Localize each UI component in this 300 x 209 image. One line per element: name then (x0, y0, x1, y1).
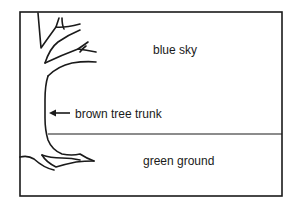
tree-icon (20, 13, 96, 170)
ground-label: green ground (143, 155, 214, 167)
scene-drawing (0, 0, 300, 209)
diagram-canvas: blue sky green ground brown tree trunk (0, 0, 300, 209)
arrow-left-icon (49, 110, 70, 117)
frame-border (20, 12, 282, 196)
trunk-callout-label: brown tree trunk (75, 108, 162, 120)
sky-label: blue sky (153, 44, 197, 56)
